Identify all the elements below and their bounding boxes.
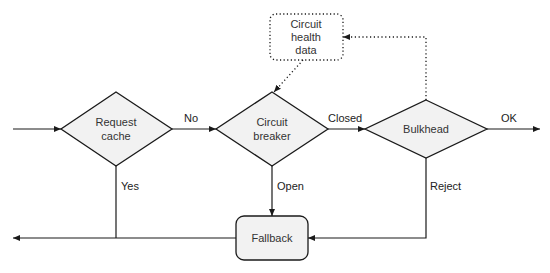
edge-label-reject: Reject — [430, 180, 461, 192]
circuit-breaker-label-2: breaker — [253, 130, 291, 142]
bulkhead-decision: Bulkhead — [365, 100, 487, 158]
edge-reject — [308, 158, 426, 238]
edge-health-data-to-circuit-breaker — [274, 60, 303, 92]
resilience-flow-diagram: Request cache No Circuit breaker Closed … — [0, 0, 550, 273]
fallback-node: Fallback — [236, 216, 308, 260]
circuit-health-data-node: Circuit health data — [270, 14, 343, 60]
request-cache-decision: Request cache — [61, 92, 172, 166]
request-cache-label-1: Request — [96, 116, 137, 128]
bulkhead-label: Bulkhead — [403, 123, 449, 135]
edge-label-ok: OK — [501, 112, 518, 124]
health-data-label-2: health — [291, 31, 321, 43]
circuit-breaker-label-1: Circuit — [256, 116, 287, 128]
health-data-label-3: data — [295, 44, 317, 56]
fallback-label: Fallback — [252, 232, 293, 244]
edge-label-closed: Closed — [328, 112, 362, 124]
health-data-label-1: Circuit — [290, 18, 321, 30]
edge-bulkhead-to-health-data — [343, 37, 426, 100]
request-cache-label-2: cache — [101, 130, 130, 142]
edge-label-yes: Yes — [121, 180, 139, 192]
circuit-breaker-decision: Circuit breaker — [216, 92, 328, 166]
edge-label-no: No — [184, 112, 198, 124]
edge-label-open: Open — [277, 180, 304, 192]
